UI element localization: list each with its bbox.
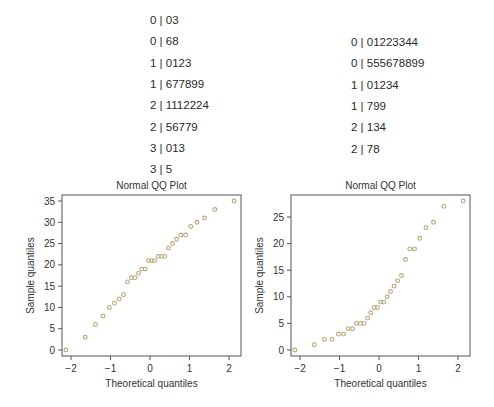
x-axis-label: Theoretical quantiles bbox=[105, 378, 197, 389]
qq-plots: Normal QQ Plot−2−101205101520253035Theor… bbox=[0, 0, 494, 407]
plot-title: Normal QQ Plot bbox=[116, 180, 187, 191]
data-point bbox=[346, 327, 350, 331]
data-point bbox=[418, 236, 422, 240]
y-tick-label: 25 bbox=[273, 212, 285, 223]
y-tick-label: 20 bbox=[273, 238, 285, 249]
x-tick-label: 2 bbox=[455, 363, 461, 374]
x-tick-label: −1 bbox=[105, 363, 117, 374]
data-point bbox=[94, 323, 98, 327]
data-point bbox=[424, 226, 428, 230]
y-tick-label: 30 bbox=[44, 217, 56, 228]
plot-frame bbox=[291, 195, 470, 356]
y-tick-label: 5 bbox=[278, 318, 284, 329]
y-tick-label: 20 bbox=[44, 259, 56, 270]
data-point bbox=[355, 322, 359, 326]
plot-frame bbox=[62, 195, 241, 356]
y-tick-label: 25 bbox=[44, 238, 56, 249]
data-point bbox=[293, 348, 297, 352]
data-point bbox=[232, 199, 236, 203]
data-point bbox=[126, 280, 130, 284]
data-point bbox=[117, 297, 121, 301]
data-point bbox=[442, 204, 446, 208]
data-point bbox=[385, 295, 389, 299]
data-point bbox=[312, 343, 316, 347]
data-point bbox=[461, 199, 465, 203]
data-point bbox=[137, 271, 141, 275]
x-tick-label: −2 bbox=[65, 363, 77, 374]
y-tick-label: 10 bbox=[44, 302, 56, 313]
data-point bbox=[392, 284, 396, 288]
data-point bbox=[175, 237, 179, 241]
qq-plot-right: Normal QQ Plot−2−10120510152025Theoretic… bbox=[254, 180, 470, 389]
x-tick-label: 1 bbox=[187, 363, 193, 374]
x-tick-label: 0 bbox=[376, 363, 382, 374]
y-tick-label: 0 bbox=[278, 345, 284, 356]
data-point bbox=[389, 290, 393, 294]
x-tick-label: −1 bbox=[334, 363, 346, 374]
data-point bbox=[336, 332, 340, 336]
y-tick-label: 15 bbox=[273, 265, 285, 276]
data-point bbox=[396, 279, 400, 283]
x-tick-label: 2 bbox=[226, 363, 232, 374]
data-point bbox=[342, 332, 346, 336]
data-point bbox=[189, 225, 193, 229]
y-tick-label: 10 bbox=[273, 291, 285, 302]
y-tick-label: 0 bbox=[49, 345, 55, 356]
data-point bbox=[213, 208, 217, 212]
data-point bbox=[413, 247, 417, 251]
x-axis-label: Theoretical quantiles bbox=[334, 378, 426, 389]
y-tick-label: 5 bbox=[49, 323, 55, 334]
data-point bbox=[195, 220, 199, 224]
data-point bbox=[323, 337, 327, 341]
data-point bbox=[171, 242, 175, 246]
data-point bbox=[203, 216, 207, 220]
data-point bbox=[101, 314, 105, 318]
data-point bbox=[179, 233, 183, 237]
data-point bbox=[366, 316, 370, 320]
y-tick-label: 15 bbox=[44, 281, 56, 292]
data-point bbox=[122, 293, 126, 297]
data-point bbox=[184, 233, 188, 237]
y-axis-label: Sample quantiles bbox=[25, 237, 36, 314]
x-tick-label: −2 bbox=[294, 363, 306, 374]
data-point bbox=[113, 301, 117, 305]
data-point bbox=[107, 306, 111, 310]
plot-title: Normal QQ Plot bbox=[345, 180, 416, 191]
y-tick-label: 35 bbox=[44, 196, 56, 207]
data-point bbox=[408, 247, 412, 251]
data-point bbox=[330, 337, 334, 341]
y-axis-label: Sample quantiles bbox=[254, 237, 265, 314]
data-point bbox=[404, 258, 408, 262]
data-point bbox=[432, 220, 436, 224]
data-point bbox=[351, 327, 355, 331]
data-point bbox=[83, 335, 87, 339]
data-point bbox=[167, 246, 171, 250]
x-tick-label: 0 bbox=[147, 363, 153, 374]
data-point bbox=[400, 274, 404, 278]
x-tick-label: 1 bbox=[416, 363, 422, 374]
data-point bbox=[369, 311, 373, 315]
qq-plot-left: Normal QQ Plot−2−101205101520253035Theor… bbox=[25, 180, 241, 389]
data-point bbox=[64, 348, 68, 352]
